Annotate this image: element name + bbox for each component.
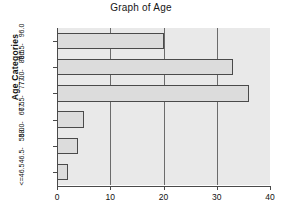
y-tick — [53, 120, 57, 121]
y-tick — [53, 172, 57, 173]
bar-58-0-67-5 — [57, 111, 84, 127]
x-tick-label: 40 — [255, 192, 282, 202]
x-tick-20 — [164, 186, 165, 190]
x-tick-40 — [270, 186, 271, 190]
y-category-label: 86.5-96.0 — [18, 15, 29, 67]
bar-row — [57, 33, 270, 49]
chart-container: Graph of Age Age Categories 010203040 <=… — [0, 0, 282, 214]
x-tick-0 — [57, 186, 58, 190]
y-tick — [53, 93, 57, 94]
y-tick — [53, 67, 57, 68]
y-axis-line — [57, 28, 58, 186]
bar-row — [57, 85, 270, 101]
y-tick — [53, 146, 57, 147]
chart-title: Graph of Age — [0, 2, 282, 13]
x-tick-label: 10 — [95, 192, 125, 202]
plot-area — [57, 28, 270, 185]
bar-77-0-86-5 — [57, 59, 233, 75]
x-tick-30 — [217, 186, 218, 190]
x-tick-label: 30 — [202, 192, 232, 202]
bars-layer — [57, 28, 270, 185]
bar--46-5 — [57, 164, 68, 180]
bar-67-5-77-0 — [57, 85, 249, 101]
bar-row — [57, 59, 270, 75]
x-tick-10 — [110, 186, 111, 190]
bar-row — [57, 111, 270, 127]
y-tick — [53, 41, 57, 42]
x-tick-label: 20 — [149, 192, 179, 202]
x-tick-label: 0 — [42, 192, 72, 202]
bar-46-5-58-0 — [57, 138, 78, 154]
bar-86-5-96-0 — [57, 33, 164, 49]
bar-row — [57, 138, 270, 154]
bar-row — [57, 164, 270, 180]
